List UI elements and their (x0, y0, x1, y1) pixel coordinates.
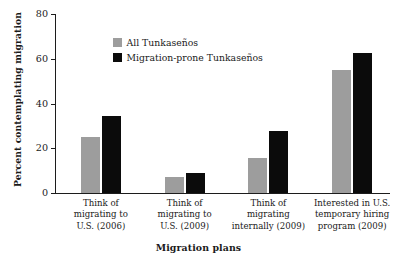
x-category-label: Think ofmigrating toU.S. (2006) (59, 198, 143, 232)
x-category-label-line: temporary hiring (310, 209, 394, 220)
x-category-label-line: Think of (59, 198, 143, 209)
bar (332, 70, 351, 193)
x-category-label-line: internally (2009) (226, 221, 310, 232)
legend-label: All Tunkaseños (127, 38, 199, 47)
x-category-label-line: U.S. (2006) (59, 221, 143, 232)
legend-swatch-icon (113, 38, 122, 47)
bar (269, 131, 288, 193)
y-tick-mark (51, 148, 56, 149)
y-tick-mark (51, 14, 56, 15)
bar-chart-figure: Percent contemplating migration 02040608… (0, 0, 397, 260)
bar (248, 158, 267, 193)
y-tick-label: 60 (36, 54, 48, 64)
x-category-label-line: program (2009) (310, 221, 394, 232)
x-category-label: Think ofmigratinginternally (2009) (226, 198, 310, 232)
y-tick-label: 0 (42, 188, 48, 198)
x-category-label-line: Think of (143, 198, 227, 209)
bar (186, 173, 205, 193)
legend-item: All Tunkaseños (113, 35, 263, 50)
legend: All TunkaseñosMigration-prone Tunkaseños (113, 35, 263, 65)
bar (102, 116, 121, 193)
bar (165, 177, 184, 193)
x-axis-line (55, 193, 390, 194)
y-tick-label: 80 (36, 9, 48, 19)
x-category-label-line: Interested in U.S. (310, 198, 394, 209)
legend-item: Migration-prone Tunkaseños (113, 50, 263, 65)
x-category-label-line: migrating to (59, 209, 143, 220)
bar (81, 137, 100, 193)
legend-swatch-icon (113, 53, 122, 62)
x-category-label: Think ofmigrating toU.S. (2009) (143, 198, 227, 232)
x-axis-title: Migration plans (0, 242, 397, 253)
x-category-label-line: migrating (226, 209, 310, 220)
y-tick-mark (51, 104, 56, 105)
x-category-label-line: migrating to (143, 209, 227, 220)
bar (353, 53, 372, 193)
y-tick-label: 20 (36, 143, 48, 153)
y-tick-mark (51, 193, 56, 194)
y-tick-label: 40 (36, 99, 48, 109)
y-axis-title: Percent contemplating migration (12, 5, 23, 195)
x-category-label: Interested in U.S.temporary hiringprogra… (310, 198, 394, 232)
x-category-label-line: U.S. (2009) (143, 221, 227, 232)
legend-label: Migration-prone Tunkaseños (127, 53, 263, 62)
x-category-label-line: Think of (226, 198, 310, 209)
y-tick-mark (51, 59, 56, 60)
